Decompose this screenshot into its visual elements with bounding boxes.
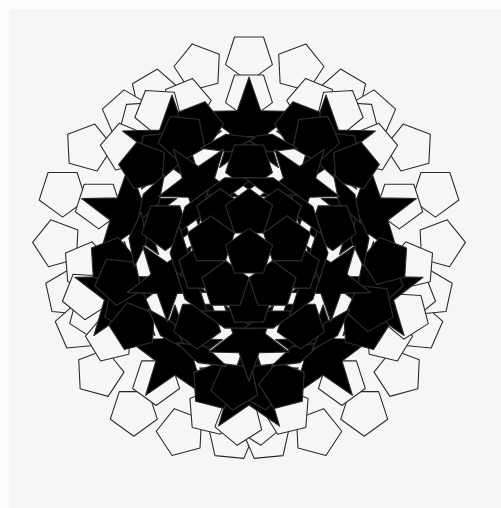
penrose-tiling-figure [0, 0, 501, 508]
tiles-layer [33, 37, 466, 458]
artwork-frame [0, 0, 501, 508]
